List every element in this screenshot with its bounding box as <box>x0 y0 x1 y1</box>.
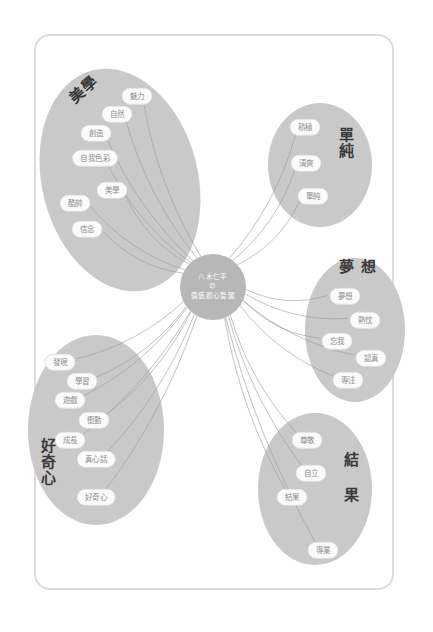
cluster-title-curiosity: 好奇心 <box>39 438 55 486</box>
leaf-label-dream-3[interactable]: 認真 <box>356 350 387 367</box>
leaf-label-curiosity-3[interactable]: 衝動 <box>79 412 110 429</box>
leaf-label-result-2[interactable]: 結果 <box>277 489 308 506</box>
leaf-label-curiosity-5[interactable]: 真心話 <box>77 451 116 468</box>
leaf-label-curiosity-4[interactable]: 成長 <box>55 432 86 449</box>
leaf-label-curiosity-0[interactable]: 發現 <box>45 354 76 371</box>
leaf-label-curiosity-1[interactable]: 學習 <box>67 373 98 390</box>
leaf-label-simplicity-2[interactable]: 單純 <box>298 188 329 205</box>
leaf-label-aesthetics-2[interactable]: 創造 <box>81 125 112 142</box>
leaf-label-aesthetics-4[interactable]: 美學 <box>97 182 128 199</box>
cluster-title-result: 結 果 <box>342 452 358 503</box>
leaf-label-curiosity-6[interactable]: 好奇心 <box>77 489 116 506</box>
leaf-label-aesthetics-5[interactable]: 酷帥 <box>60 195 91 212</box>
leaf-label-aesthetics-1[interactable]: 自然 <box>102 106 133 123</box>
leaf-label-curiosity-2[interactable]: 遊戲 <box>55 392 86 409</box>
connector-result-0 <box>230 315 297 434</box>
leaf-label-aesthetics-6[interactable]: 信念 <box>72 221 103 238</box>
leaf-label-simplicity-0[interactable]: 積極 <box>290 119 321 136</box>
leaf-label-aesthetics-3[interactable]: 自我色彩 <box>72 150 118 167</box>
leaf-label-result-3[interactable]: 專業 <box>308 542 339 559</box>
leaf-label-dream-0[interactable]: 夢想 <box>330 288 361 305</box>
leaf-label-dream-4[interactable]: 專注 <box>333 372 364 389</box>
cluster-title-simplicity: 單純 <box>337 127 353 159</box>
leaf-label-dream-2[interactable]: 忘我 <box>322 333 353 350</box>
mindmap-canvas: 魅力自然創造自我色彩美學酷帥信念積極清爽單純夢想熱忱忘我認真專注發現學習遊戲衝動… <box>0 0 433 632</box>
leaf-label-result-1[interactable]: 自立 <box>296 465 327 482</box>
leaf-label-dream-1[interactable]: 熱忱 <box>350 312 381 329</box>
leaf-label-simplicity-1[interactable]: 清爽 <box>291 155 322 172</box>
center-node-circle <box>180 254 246 320</box>
leaf-label-aesthetics-0[interactable]: 魅力 <box>122 88 153 105</box>
leaf-label-result-0[interactable]: 尊敬 <box>292 432 323 449</box>
cluster-title-dream: 夢 想 <box>339 260 377 276</box>
